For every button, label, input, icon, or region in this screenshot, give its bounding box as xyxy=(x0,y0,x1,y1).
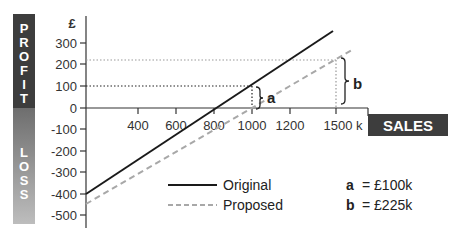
svg-text:S: S xyxy=(20,173,29,188)
svg-text:1500 k: 1500 k xyxy=(323,118,363,133)
svg-text:400: 400 xyxy=(127,118,149,133)
y-ticks xyxy=(80,43,86,215)
legend-b-letter: b xyxy=(346,197,355,213)
svg-text:-400: -400 xyxy=(51,187,77,202)
svg-text:1200: 1200 xyxy=(276,118,305,133)
original-line xyxy=(86,31,333,194)
currency-label: £ xyxy=(68,16,76,31)
svg-text:200: 200 xyxy=(55,57,77,72)
break-even-chart: PRO FIT LOSS £ 300 200 100 0 -100 -200 -… xyxy=(0,0,465,238)
svg-text:300: 300 xyxy=(55,36,77,51)
svg-text:-200: -200 xyxy=(51,144,77,159)
svg-text:S: S xyxy=(20,187,29,202)
x-ticks xyxy=(138,108,336,114)
svg-text:-500: -500 xyxy=(51,208,77,223)
svg-text:100: 100 xyxy=(55,79,77,94)
svg-text:P: P xyxy=(20,21,29,36)
y-tick-labels: 300 200 100 0 -100 -200 -300 -400 -500 xyxy=(51,36,77,223)
annotation-a: a xyxy=(267,89,276,106)
annotation-b: b xyxy=(353,75,362,92)
brace-a xyxy=(256,87,263,109)
svg-text:-100: -100 xyxy=(51,122,77,137)
svg-text:-300: -300 xyxy=(51,165,77,180)
legend-proposed-label: Proposed xyxy=(223,197,283,213)
svg-text:O: O xyxy=(19,49,29,64)
legend-b-value: = £225k xyxy=(362,197,413,213)
svg-text:1000: 1000 xyxy=(238,118,267,133)
svg-text:F: F xyxy=(20,63,28,78)
svg-text:800: 800 xyxy=(203,118,225,133)
legend-a-value: = £100k xyxy=(362,177,413,193)
svg-text:R: R xyxy=(19,35,29,50)
x-tick-labels: 400 600 800 1000 1200 1500 k xyxy=(127,118,363,133)
legend: Original Proposed a = £100k b = £225k xyxy=(168,177,413,213)
legend-a-letter: a xyxy=(346,177,354,193)
proposed-line xyxy=(86,50,352,204)
legend-original-label: Original xyxy=(223,177,271,193)
brace-b xyxy=(341,58,349,104)
svg-text:0: 0 xyxy=(70,101,77,116)
svg-text:L: L xyxy=(20,145,28,160)
svg-text:I: I xyxy=(22,77,26,92)
loss-label: LOSS xyxy=(19,145,29,202)
svg-text:T: T xyxy=(20,91,28,106)
profit-label: PRO FIT xyxy=(19,21,29,106)
svg-text:O: O xyxy=(19,159,29,174)
sales-label: SALES xyxy=(383,117,433,134)
